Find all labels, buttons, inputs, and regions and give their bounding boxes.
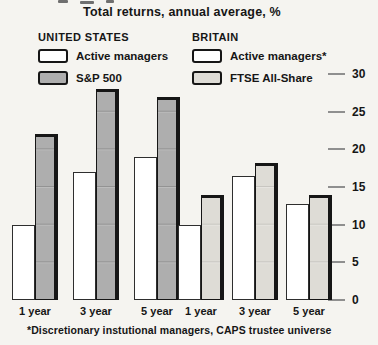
axis-tick-label: 15 <box>352 180 365 194</box>
category-label: 5 year <box>274 305 344 317</box>
axis-tick-label: 25 <box>352 105 365 119</box>
bar-ftse <box>201 195 224 300</box>
axis-tick-label: 5 <box>352 255 359 269</box>
bar-sp500 <box>96 89 119 300</box>
bar-active-managers <box>178 225 201 300</box>
axis-tick-line <box>328 73 345 75</box>
footnote: *Discretionary instutional managers, CAP… <box>27 324 332 336</box>
category-label: 1 year <box>0 305 70 317</box>
bar-sp500 <box>157 97 180 300</box>
axis-tick-label: 10 <box>352 218 365 232</box>
axis-tick-label: 30 <box>352 67 365 81</box>
bar-sp500 <box>35 134 58 300</box>
bar-active-managers <box>73 172 96 300</box>
bar-active-managers <box>232 176 255 300</box>
bar-active-managers <box>134 157 157 300</box>
plot-area: 0510152025301 year3 year5 year1 year3 ye… <box>0 0 378 345</box>
axis-tick-line <box>328 148 345 150</box>
axis-tick-line <box>328 186 345 188</box>
axis-tick-line <box>328 111 345 113</box>
category-label: 3 year <box>61 305 131 317</box>
axis-tick-label: 20 <box>352 142 365 156</box>
bar-active-managers <box>12 225 35 300</box>
bar-ftse <box>255 163 278 300</box>
axis-tick-label: 0 <box>352 293 359 307</box>
bar-active-managers <box>286 204 309 300</box>
bar-ftse <box>309 195 332 300</box>
chart-panel: Total returns, annual average, % UNITED … <box>0 0 378 345</box>
